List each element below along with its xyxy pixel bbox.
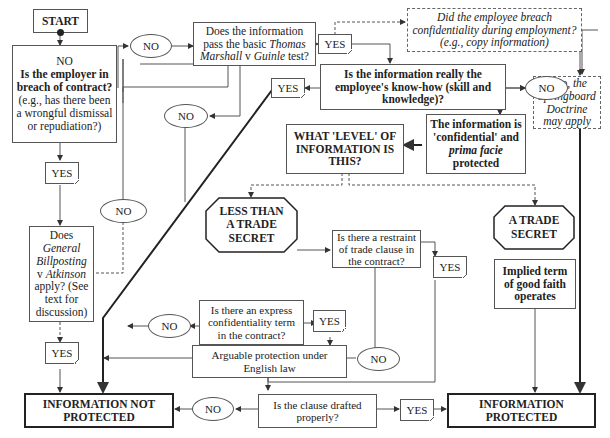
information-protected: INFORMATION PROTECTED <box>447 393 596 428</box>
bp-v: v <box>37 268 46 280</box>
yes-tag-drafted: YES <box>400 399 434 421</box>
bp-apply: apply? (See text for discussion) <box>33 280 90 319</box>
implied-term-text: Implied term of good faith operates <box>498 265 572 304</box>
billposting-question: Does General Billposting v Atkinson appl… <box>29 226 94 322</box>
trade-secret-text: A TRADE SECRET <box>493 214 575 240</box>
bp-case-2: Atkinson <box>46 268 86 280</box>
start-dot <box>57 29 64 36</box>
employer-breach-question: NO Is the employer in breach of contract… <box>12 45 117 143</box>
no-oval-know-how: NO <box>525 76 568 100</box>
bp-does: Does <box>50 229 74 242</box>
know-how-question: Is the information really the employee's… <box>320 64 506 110</box>
yes-tag-know-how: YES <box>271 78 305 98</box>
no-label: NO <box>205 403 221 415</box>
no-label: NO <box>178 110 194 122</box>
yes-label: YES <box>325 38 346 50</box>
start-label: START <box>42 15 79 28</box>
no-label: NO <box>539 82 555 94</box>
yes-label: YES <box>52 167 73 179</box>
restraint-text: Is there a restraint of trade clause in … <box>336 231 417 268</box>
tm-line2a: pass the basic <box>203 38 269 50</box>
yes-label: YES <box>52 347 73 359</box>
yes-tag-breach: YES <box>45 162 79 184</box>
not-protected-text: INFORMATION NOT PROTECTED <box>29 398 169 424</box>
information-not-protected: INFORMATION NOT PROTECTED <box>24 393 174 428</box>
express-term-question: Is there an express confidentiality term… <box>199 300 304 345</box>
express-term-text: Is there an express confidentiality term… <box>203 304 300 341</box>
arguable-protection-box: Arguable protection under English law <box>192 345 347 378</box>
no-label: NO <box>116 205 132 217</box>
springboard-breach-question: Did the employee breach confidentiality … <box>407 8 582 52</box>
no-label: NO <box>162 320 178 332</box>
springboard-question-text: Did the employee breach confidentiality … <box>411 11 578 50</box>
bp-case-1: General Billposting <box>33 242 90 268</box>
know-how-text: Is the information really the employee's… <box>324 68 502 107</box>
tm-case-3: Guinle <box>254 50 285 62</box>
tm-case-1: Thomas <box>269 38 305 50</box>
restraint-of-trade-question: Is there a restraint of trade clause in … <box>332 230 421 268</box>
yes-label: YES <box>440 261 461 273</box>
protected-text: INFORMATION PROTECTED <box>452 398 591 424</box>
confidential-box: The information is 'confidential' and pr… <box>426 114 526 174</box>
no-oval-drafted: NO <box>192 397 234 421</box>
no-oval-express-term: NO <box>148 314 191 338</box>
tm-line1: Does the information <box>206 25 304 38</box>
no-oval-restraint: NO <box>357 347 400 371</box>
no-oval-tm: NO <box>164 104 208 128</box>
flowchart: START NO Is the employer in breach of co… <box>0 0 610 438</box>
drafted-text: Is the clause drafted properly? <box>262 399 373 424</box>
tm-test: test? <box>285 50 309 62</box>
drafted-properly-question: Is the clause drafted properly? <box>258 394 377 428</box>
yes-label: YES <box>407 404 428 416</box>
what-level-text: WHAT 'LEVEL' OF INFORMATION IS THIS? <box>290 130 400 169</box>
arguable-text: Arguable protection under English law <box>196 349 343 374</box>
yes-tag-restraint: YES <box>433 256 467 278</box>
breach-prefix: NO <box>56 55 73 68</box>
confidential-protected: protected <box>453 157 499 169</box>
what-level-box: WHAT 'LEVEL' OF INFORMATION IS THIS? <box>286 124 404 174</box>
breach-example: (e.g., has there been a wrongful dismiss… <box>16 94 113 133</box>
breach-question: Is the employer in breach of contract? <box>16 68 113 94</box>
no-oval-breach: NO <box>130 34 172 58</box>
confidential-text: The information is 'confidential' and <box>430 118 521 143</box>
tm-v: v <box>242 50 254 62</box>
yes-tag-billposting: YES <box>45 342 79 364</box>
no-oval-billposting: NO <box>100 199 147 223</box>
less-than-trade-secret: LESS THAN A TRADE SECRET <box>205 197 298 253</box>
yes-label: YES <box>278 82 299 94</box>
implied-term-box: Implied term of good faith operates <box>494 259 576 309</box>
yes-label: YES <box>319 315 340 327</box>
yes-tag-tm: YES <box>318 34 352 54</box>
tm-case-2: Marshall <box>200 50 242 62</box>
thomas-marshall-question: Does the information pass the basic Thom… <box>193 22 316 66</box>
prima-facie: prima facie <box>449 144 503 156</box>
yes-tag-express-term: YES <box>313 310 346 332</box>
less-than-trade-secret-text: LESS THAN A TRADE SECRET <box>205 205 298 245</box>
no-label: NO <box>143 40 159 52</box>
no-label: NO <box>371 353 387 365</box>
trade-secret: A TRADE SECRET <box>493 205 575 250</box>
